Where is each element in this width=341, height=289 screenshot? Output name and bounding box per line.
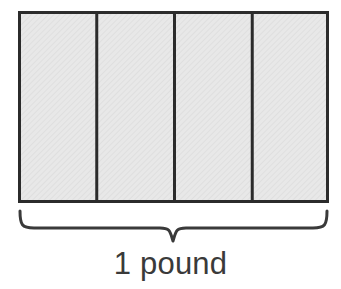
fraction-bar-figure: 1 pound	[0, 0, 341, 289]
partition-cell-4	[253, 13, 328, 202]
partition-cell-2	[97, 13, 175, 202]
partition-cell-3	[175, 13, 253, 202]
brace-path	[20, 211, 327, 241]
partition-cell-1	[20, 13, 98, 202]
brace-label: 1 pound	[0, 246, 341, 282]
